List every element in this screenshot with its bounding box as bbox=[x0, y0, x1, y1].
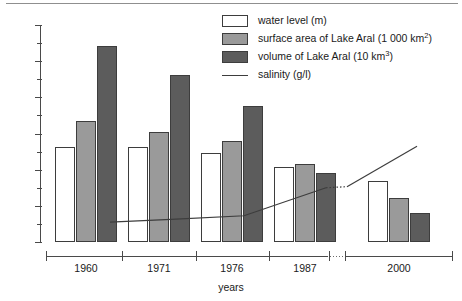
bar-surface_area-1987 bbox=[295, 164, 315, 242]
bar-surface_area-1971 bbox=[149, 132, 169, 242]
legend-entry-label: salinity (g/l) bbox=[258, 69, 311, 81]
bar-volume-2000 bbox=[410, 213, 430, 242]
x-axis-line-left bbox=[46, 256, 328, 257]
y-tick-minor bbox=[37, 224, 42, 225]
x-axis-separator bbox=[196, 251, 197, 261]
bar-surface_area-2000 bbox=[389, 198, 409, 242]
y-tick-major bbox=[35, 61, 42, 62]
legend-color-swatch-icon bbox=[222, 33, 248, 45]
bar-surface_area-1960 bbox=[76, 121, 96, 242]
x-axis-line-right bbox=[345, 256, 452, 257]
x-axis-label-1971: 1971 bbox=[147, 263, 170, 274]
x-axis-label-1987: 1987 bbox=[293, 263, 316, 274]
x-axis-label-1976: 1976 bbox=[220, 263, 243, 274]
chart-canvas: 020406080100120 19601971197619872000 yea… bbox=[0, 0, 462, 301]
x-axis-separator bbox=[345, 251, 346, 261]
bar-volume-1976 bbox=[243, 106, 263, 242]
legend-entry-label: volume of Lake Aral (10 km3) bbox=[258, 51, 393, 63]
x-axis-separator bbox=[452, 251, 453, 261]
x-axis-separator bbox=[46, 251, 47, 261]
x-axis-separator bbox=[122, 251, 123, 261]
y-tick-minor bbox=[37, 152, 42, 153]
bar-water_level-2000 bbox=[368, 181, 388, 242]
legend-entry-1[interactable]: surface area of Lake Aral (1 000 km2) bbox=[222, 30, 458, 48]
bar-water_level-1971 bbox=[128, 147, 148, 242]
bar-water_level-1987 bbox=[274, 167, 294, 242]
y-tick-minor bbox=[37, 79, 42, 80]
y-tick-minor bbox=[37, 43, 42, 44]
y-tick-minor bbox=[37, 115, 42, 116]
bar-volume-1960 bbox=[97, 46, 117, 242]
x-axis-label-2000: 2000 bbox=[387, 263, 410, 274]
y-tick-major bbox=[35, 25, 42, 26]
bar-surface_area-1976 bbox=[222, 141, 242, 242]
legend-color-swatch-icon bbox=[222, 51, 248, 63]
y-tick-major bbox=[35, 170, 42, 171]
legend-entry-3[interactable]: salinity (g/l) bbox=[222, 66, 458, 84]
legend-color-swatch-icon bbox=[222, 15, 248, 27]
y-tick-major bbox=[35, 242, 42, 243]
x-axis-separator bbox=[269, 251, 270, 261]
bar-water_level-1976 bbox=[201, 153, 221, 242]
x-axis-title: years bbox=[0, 281, 462, 293]
legend-entry-label: water level (m) bbox=[258, 15, 327, 27]
bar-volume-1987 bbox=[316, 173, 336, 242]
legend-entry-label: surface area of Lake Aral (1 000 km2) bbox=[258, 33, 432, 45]
y-tick-major bbox=[35, 134, 42, 135]
bar-volume-1971 bbox=[170, 75, 190, 242]
y-tick-minor bbox=[37, 188, 42, 189]
x-axis-separator bbox=[329, 251, 330, 261]
bar-water_level-1960 bbox=[55, 147, 75, 242]
y-tick-major bbox=[35, 97, 42, 98]
legend-entry-0[interactable]: water level (m) bbox=[222, 12, 458, 30]
legend-line-swatch-icon bbox=[222, 69, 248, 81]
y-tick-major bbox=[35, 206, 42, 207]
x-axis-break-dotted bbox=[329, 255, 344, 258]
legend-entry-2[interactable]: volume of Lake Aral (10 km3) bbox=[222, 48, 458, 66]
chart-legend: water level (m)surface area of Lake Aral… bbox=[222, 12, 458, 84]
x-axis-label-1960: 1960 bbox=[74, 263, 97, 274]
